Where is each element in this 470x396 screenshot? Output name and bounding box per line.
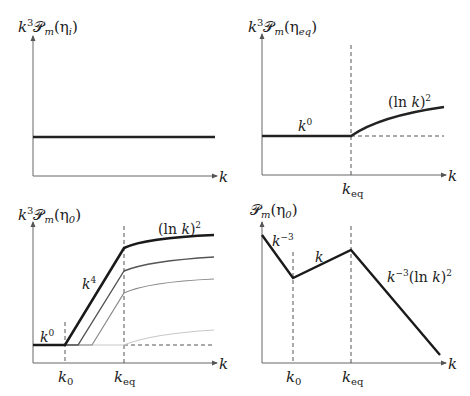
spectrum-line — [262, 235, 440, 355]
tick-label-keq: keq — [114, 368, 136, 387]
x-axis-label: k — [219, 168, 228, 186]
figure: k3𝒫m(ηi) k k3𝒫m(ηeq) k keq k0 (ln k)2 — [0, 0, 470, 396]
spectrum-curve — [262, 107, 444, 136]
annotation-lnk2: (ln k)2 — [158, 220, 201, 237]
tick-label-k0: k0 — [286, 368, 301, 387]
y-axis-label: 𝒫m(η0) — [250, 201, 298, 220]
annotation-k4: k4 — [82, 275, 96, 292]
tick-label-keq: keq — [342, 180, 364, 199]
panel-today-p: 𝒫m(η0) k k0 keq k−3 k k−3(ln k)2 — [250, 201, 457, 387]
x-axis-label: k — [448, 355, 457, 373]
y-axis-label: k3𝒫m(ηi) — [18, 17, 78, 37]
annotation-k0: k0 — [298, 117, 312, 134]
annotation-k-minus3-lnk2: k−3(ln k)2 — [387, 268, 452, 285]
y-axis-label: k3𝒫m(ηeq) — [248, 17, 317, 37]
tick-label-keq: keq — [342, 368, 364, 387]
annotation-k0: k0 — [40, 328, 54, 345]
annotation-lnk2: (ln k)2 — [388, 93, 431, 110]
x-axis-label: k — [448, 167, 457, 185]
annotation-k: k — [315, 249, 323, 265]
x-axis-label: k — [219, 355, 228, 373]
tick-label-k0: k0 — [58, 368, 73, 387]
panel-initial: k3𝒫m(ηi) k — [18, 17, 228, 186]
panel-equality: k3𝒫m(ηeq) k keq k0 (ln k)2 — [248, 17, 457, 199]
panel-today-k3p: k3𝒫m(η0) k k0 keq k0 k4 (ln k)2 — [18, 205, 228, 387]
y-axis-label: k3𝒫m(η0) — [18, 205, 81, 225]
annotation-k-minus3: k−3 — [272, 232, 294, 249]
